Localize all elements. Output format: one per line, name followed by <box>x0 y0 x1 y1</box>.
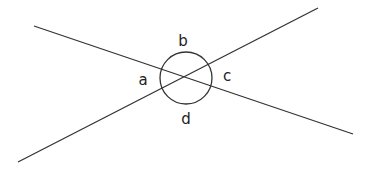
angle-label-a: a <box>138 73 147 88</box>
angle-label-b: b <box>178 34 188 49</box>
line-ascending <box>18 8 318 162</box>
diagram-canvas: a b c d <box>0 0 368 169</box>
diagram-svg <box>0 0 368 169</box>
angle-label-c: c <box>223 69 231 84</box>
angle-label-d: d <box>181 112 191 127</box>
line-descending <box>34 26 353 134</box>
